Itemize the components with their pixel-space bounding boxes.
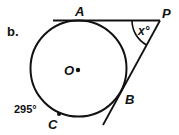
- tangent-line-pb: [103, 21, 160, 126]
- label-o: O: [64, 63, 74, 78]
- tangent-circle-diagram: b. A P O B C x° 295°: [0, 0, 179, 135]
- point-c-dot: [57, 112, 61, 116]
- arc-295-label: 295°: [14, 103, 37, 115]
- angle-x-label: x°: [137, 24, 150, 38]
- label-a: A: [74, 4, 84, 19]
- label-p: P: [162, 6, 171, 21]
- label-c: C: [48, 117, 58, 132]
- label-b: B: [125, 92, 134, 107]
- part-label: b.: [7, 24, 19, 39]
- center-point-o: [76, 68, 80, 72]
